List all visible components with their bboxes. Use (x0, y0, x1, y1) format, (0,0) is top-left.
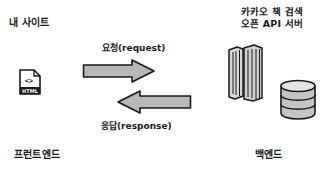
api-server-label: 카카오 책 검색 오픈 API 서버 (236, 6, 308, 30)
database-icon (279, 79, 317, 121)
my-site-label: 내 사이트 (9, 17, 49, 29)
html-file-tag: HTML (22, 88, 39, 94)
frontend-label: 프런트엔드 (14, 149, 60, 161)
response-label: 응답(response) (101, 121, 172, 132)
response-arrow (116, 90, 192, 114)
api-server-label-line1: 카카오 책 검색 (236, 6, 308, 18)
html-file-icon: <> HTML (18, 68, 42, 96)
api-server-label-line2: 오픈 API 서버 (236, 18, 308, 30)
request-arrow (82, 59, 156, 83)
html-file-code-glyph: <> (25, 77, 33, 85)
backend-label: 백엔드 (255, 149, 283, 161)
request-label: 요청(request) (102, 43, 165, 54)
server-towers-icon (227, 44, 265, 102)
